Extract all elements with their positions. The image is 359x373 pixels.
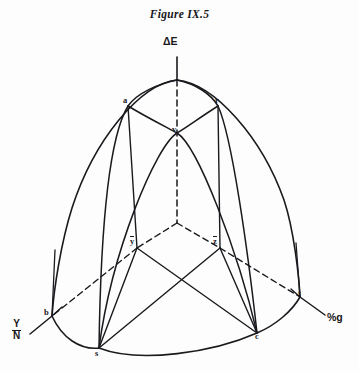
delta-E-axis-label: ΔE [163, 35, 178, 47]
point-label-z-bar: z [213, 236, 217, 246]
point-label-b: b [44, 307, 49, 317]
surface-outline-left [52, 80, 177, 316]
point-label-y-bar: y [130, 236, 134, 246]
corner-b-tick [52, 307, 62, 316]
response-surface-drawing [0, 0, 359, 373]
drop-line-a-to-ybar [128, 106, 137, 248]
Y-over-N-numerator: Y [12, 319, 21, 331]
hidden-edge-center-to-ybar [137, 223, 177, 248]
point-label-v: v [172, 124, 176, 134]
surface-cross-curve-r-to-s [99, 106, 218, 348]
drop-line-r-to-zbar [218, 106, 220, 248]
point-label-c: c [255, 331, 259, 341]
point-label-s: s [95, 348, 98, 358]
figure-container: Figure IX.5 [0, 0, 359, 373]
percent-g-axis-label: %g [327, 311, 343, 323]
point-label-t: t [298, 288, 301, 298]
surface-cross-curve-a-to-c [128, 106, 257, 333]
Y-over-N-axis-stem [30, 316, 52, 334]
point-label-r: r [215, 95, 219, 105]
point-label-a: a [123, 95, 127, 105]
point-label-y-bar-text: y [130, 236, 134, 246]
percent-g-axis-stem [300, 297, 325, 315]
surface-ridge-left [99, 80, 177, 348]
Y-over-N-axis-label: Y N [12, 319, 21, 341]
point-label-z-bar-text: z [213, 236, 217, 246]
hidden-edge-zbar-to-t [220, 248, 300, 297]
Y-over-N-denominator: N [12, 331, 21, 342]
base-ellipse-front-arc [52, 297, 300, 355]
